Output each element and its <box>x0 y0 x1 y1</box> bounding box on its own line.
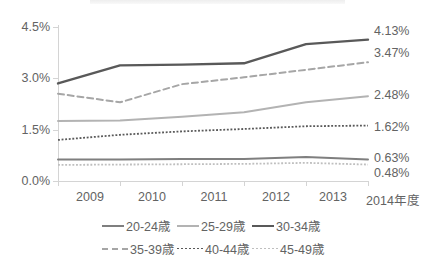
legend-label-40-44: 40-44歳 <box>205 239 250 258</box>
legend-item-30-34[interactable]: 30-34歳 <box>252 216 327 235</box>
chart-legend: 20-24歳 25-29歳 30-34歳 35-39歳 40-44歳 <box>0 216 429 258</box>
legend-line-icon-40-44 <box>177 248 203 250</box>
legend-label-20-24: 20-24歳 <box>126 216 171 235</box>
series-line-45-49歳 <box>58 163 368 165</box>
end-label-45-49: 0.48% <box>374 166 409 180</box>
legend-line-icon-35-39 <box>102 248 128 250</box>
legend-item-45-49[interactable]: 45-49歳 <box>252 239 327 258</box>
end-label-35-39: 3.47% <box>374 46 409 60</box>
legend-item-20-24[interactable]: 20-24歳 <box>102 216 177 235</box>
series-line-35-39歳 <box>58 62 368 102</box>
series-line-20-24歳 <box>58 157 368 159</box>
line-chart: 4.5% 3.0% 1.5% 0.0% 2009 2010 2011 2012 … <box>0 0 429 268</box>
series-line-30-34歳 <box>58 40 368 84</box>
legend-item-40-44[interactable]: 40-44歳 <box>177 239 252 258</box>
legend-row-2: 35-39歳 40-44歳 45-49歳 <box>102 239 327 258</box>
legend-row-1: 20-24歳 25-29歳 30-34歳 <box>102 216 327 235</box>
legend-item-35-39[interactable]: 35-39歳 <box>102 239 177 258</box>
end-label-40-44: 1.62% <box>374 120 409 134</box>
legend-line-icon-25-29 <box>177 221 199 231</box>
legend-label-25-29: 25-29歳 <box>201 216 246 235</box>
legend-line-icon-30-34 <box>252 221 274 231</box>
legend-label-35-39: 35-39歳 <box>130 239 175 258</box>
legend-line-icon-20-24 <box>102 221 124 231</box>
end-label-20-24: 0.63% <box>374 151 409 165</box>
end-label-25-29: 2.48% <box>374 88 409 102</box>
legend-item-25-29[interactable]: 25-29歳 <box>177 216 252 235</box>
series-line-40-44歳 <box>58 126 368 140</box>
legend-label-30-34: 30-34歳 <box>276 216 321 235</box>
legend-label-45-49: 45-49歳 <box>280 239 325 258</box>
end-label-30-34: 4.13% <box>374 24 409 38</box>
legend-line-icon-45-49 <box>252 248 278 250</box>
series-line-25-29歳 <box>58 96 368 121</box>
